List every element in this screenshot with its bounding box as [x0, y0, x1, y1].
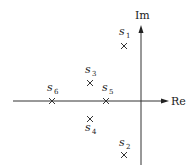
pole-subscript: 5 [109, 88, 113, 96]
imaginary-axis [139, 25, 144, 165]
pole-label-s: s [119, 136, 125, 149]
cross-marker-icon [87, 80, 93, 86]
cross-marker-icon [121, 43, 127, 49]
pole-label-s: s [119, 25, 125, 38]
pole-subscript: 3 [92, 70, 96, 78]
imag-axis-label: Im [135, 9, 150, 22]
pole-subscript: 4 [92, 128, 97, 136]
pole-s2: s 2 [119, 136, 130, 158]
real-axis-label: Re [171, 95, 186, 108]
pole-s3: s 3 [85, 63, 96, 86]
pole-label-s: s [102, 81, 108, 94]
pole-subscript: 2 [126, 143, 130, 151]
pole-subscript: 6 [54, 88, 59, 96]
pole-label-s: s [85, 121, 91, 134]
real-axis-arrow-icon [161, 99, 169, 104]
complex-plane-diagram: Re Im s 1 s 3 s 5 s 6 s 4 s 2 [0, 0, 194, 167]
pole-label-s: s [85, 63, 91, 76]
pole-label-s: s [47, 81, 53, 94]
imag-axis-arrow-icon [139, 25, 144, 33]
pole-s4: s 4 [85, 116, 97, 136]
pole-s1: s 1 [119, 25, 130, 49]
pole-subscript: 1 [126, 32, 130, 40]
real-axis [13, 99, 169, 104]
cross-marker-icon [121, 152, 127, 158]
